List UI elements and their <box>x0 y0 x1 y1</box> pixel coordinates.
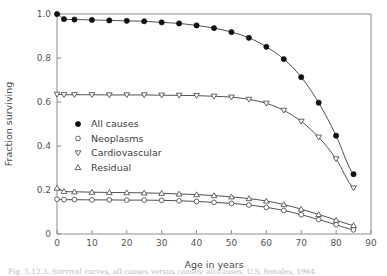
series-residual <box>54 185 356 227</box>
data-point <box>159 20 164 25</box>
y-tick-label: 0 <box>45 229 51 239</box>
data-point <box>124 198 129 203</box>
x-tick-label: 50 <box>226 238 238 248</box>
y-tick-label: 0.2 <box>37 185 51 195</box>
legend-label: Cardiovascular <box>91 147 162 158</box>
data-point <box>89 17 94 22</box>
data-point <box>247 203 252 208</box>
data-point <box>351 186 357 191</box>
legend-label: Neoplasms <box>91 133 143 144</box>
legend-marker <box>76 136 81 141</box>
data-point <box>351 227 356 232</box>
data-point <box>142 198 147 203</box>
data-point <box>351 172 356 177</box>
data-point <box>333 157 339 162</box>
x-tick-label: 40 <box>191 238 203 248</box>
chart-legend: All causesNeoplasmsCardiovascularResidua… <box>75 118 162 173</box>
data-point <box>72 197 77 202</box>
data-point <box>299 212 304 217</box>
data-point <box>229 201 234 206</box>
data-point <box>72 17 77 22</box>
x-tick-label: 20 <box>121 238 133 248</box>
y-tick-label: 0.4 <box>37 141 52 151</box>
data-point <box>299 75 304 80</box>
data-point <box>54 11 59 16</box>
series-line <box>57 199 354 230</box>
data-point <box>176 21 181 26</box>
y-axis-title: Fraction surviving <box>3 82 14 166</box>
data-point <box>212 200 217 205</box>
data-point <box>159 198 164 203</box>
data-point <box>194 23 199 28</box>
data-point <box>142 19 147 24</box>
data-point <box>264 44 269 49</box>
legend-marker <box>75 151 81 156</box>
data-point <box>316 217 321 222</box>
data-point <box>62 197 67 202</box>
legend-marker <box>75 165 81 170</box>
data-point <box>107 198 112 203</box>
data-point <box>316 100 321 105</box>
legend-label: Residual <box>91 162 131 173</box>
x-tick-label: 0 <box>54 238 60 248</box>
data-point <box>177 198 182 203</box>
data-point <box>61 189 67 194</box>
y-tick-label: 0.8 <box>37 53 52 63</box>
data-point <box>107 18 112 23</box>
data-point <box>61 16 66 21</box>
data-point <box>333 133 338 138</box>
y-tick-label: 1.0 <box>37 9 52 19</box>
data-point <box>334 222 339 227</box>
data-point <box>281 56 286 61</box>
data-point <box>54 185 60 190</box>
data-point <box>281 108 287 113</box>
legend-marker <box>75 121 80 126</box>
data-point <box>211 25 216 30</box>
survival-curve-chart: 0102030405060708090 00.20.40.60.81.0 All… <box>0 0 387 276</box>
series-neoplasms <box>55 197 356 232</box>
x-axis-ticks: 0102030405060708090 <box>54 230 377 248</box>
data-point <box>281 208 286 213</box>
figure-caption: Fig. 5.12.3. Survival curves, all-causes… <box>8 267 317 276</box>
data-point <box>264 205 269 210</box>
x-tick-label: 60 <box>261 238 273 248</box>
data-point <box>229 29 234 34</box>
legend-label: All causes <box>91 118 139 129</box>
x-tick-label: 30 <box>156 238 168 248</box>
x-tick-label: 90 <box>365 238 377 248</box>
data-point <box>124 18 129 23</box>
data-point <box>90 198 95 203</box>
figure-container: 0102030405060708090 00.20.40.60.81.0 All… <box>0 0 387 276</box>
x-tick-label: 70 <box>295 238 307 248</box>
data-point <box>55 197 60 202</box>
data-point <box>246 35 251 40</box>
series-line <box>57 188 354 225</box>
x-tick-label: 10 <box>86 238 98 248</box>
data-point <box>194 199 199 204</box>
x-tick-label: 80 <box>330 238 342 248</box>
y-tick-label: 0.6 <box>37 97 52 107</box>
